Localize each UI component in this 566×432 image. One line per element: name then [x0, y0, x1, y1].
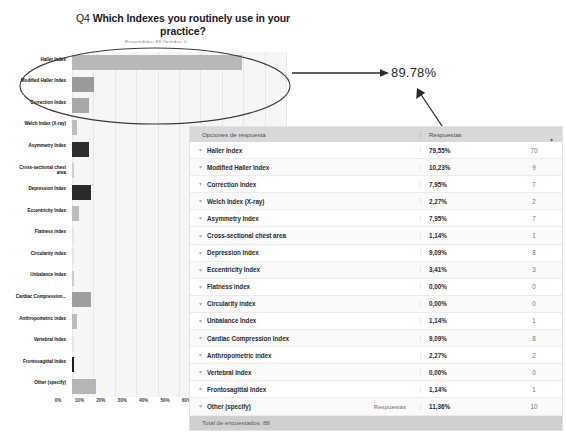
caret-down-icon[interactable]: ▾	[190, 386, 207, 392]
row-sub-label: Respuestas	[374, 403, 420, 410]
chart-bar	[72, 249, 74, 264]
table-row[interactable]: ▾Anthropometric index2,27%2	[190, 347, 562, 364]
chart-category-label: Cross-sectional chest area	[14, 165, 66, 176]
caret-down-icon[interactable]: ▾	[190, 352, 207, 358]
row-percent: 2,27%	[420, 198, 506, 205]
chart-category-label: Asymmetry Index	[14, 143, 66, 149]
caret-down-icon[interactable]: ▾	[190, 233, 207, 239]
table-row[interactable]: ▾Eccentricity Index3,41%3	[190, 262, 562, 279]
caret-down-icon[interactable]: ▾	[190, 301, 207, 307]
row-count: 70	[506, 147, 562, 154]
chart-x-tick: 40%	[139, 398, 148, 403]
row-percent: 0,00%	[420, 369, 506, 376]
row-count: 0	[506, 300, 562, 307]
chart-gridline	[158, 52, 159, 397]
row-count: 7	[506, 215, 562, 222]
row-option-label: Eccentricity Index	[207, 266, 406, 273]
chart-bar	[72, 206, 79, 221]
table-row[interactable]: ▾Welch Index (X-ray)2,27%2	[190, 193, 562, 210]
row-count: 10	[506, 403, 562, 410]
table-row[interactable]: ▾Asymmetry Index7,95%7	[190, 210, 562, 227]
row-option-label: Correction Index	[207, 181, 406, 188]
table-row[interactable]: ▾Frontosagittal Index1,14%1	[190, 381, 562, 398]
row-percent: 11,36%	[420, 403, 506, 410]
chevron-down-icon[interactable]: ▾	[550, 136, 553, 143]
row-percent: 79,55%	[420, 147, 506, 154]
row-percent: 10,23%	[420, 164, 506, 171]
table-row[interactable]: ▾Cardiac Compression Index9,09%8	[190, 330, 562, 347]
arrow-head-horizontal	[380, 69, 389, 77]
chart-bar	[72, 185, 91, 200]
chart-bar	[72, 292, 91, 307]
caret-down-icon[interactable]: ▾	[190, 318, 207, 324]
row-count: 3	[506, 266, 562, 273]
row-percent: 7,95%	[420, 215, 506, 222]
caret-down-icon[interactable]: ▾	[190, 335, 207, 341]
chart-category-label: Depression Index	[14, 186, 66, 192]
table-row[interactable]: ▾Other (specify)Respuestas11,36%10	[190, 398, 562, 415]
chart-x-tick: 10%	[75, 398, 84, 403]
row-percent: 9,09%	[420, 249, 506, 256]
row-percent: 1,14%	[420, 386, 506, 393]
caret-down-icon[interactable]: ▾	[190, 147, 207, 153]
row-count: 9	[506, 164, 562, 171]
row-percent: 3,41%	[420, 266, 506, 273]
chart-category-label: Eccentricity Index	[14, 208, 66, 214]
row-option-label: Unbalance Index	[207, 317, 406, 324]
caret-down-icon[interactable]: ▾	[190, 284, 207, 290]
table-row[interactable]: ▾Flatness index0,00%0	[190, 279, 562, 296]
row-count: 2	[506, 198, 562, 205]
row-option-label: Vertebral Index	[207, 369, 406, 376]
table-row[interactable]: ▾Cross-sectional chest area1,14%1	[190, 227, 562, 244]
column-header-options[interactable]: Opciones de respuesta	[190, 131, 420, 138]
caret-down-icon[interactable]: ▾	[190, 215, 207, 221]
table-footer-total: Total de encuestados: 88	[190, 416, 562, 430]
table-row[interactable]: ▾Modified Haller Index10,23%9	[190, 159, 562, 176]
chart-bar	[72, 379, 96, 394]
row-option-label: Cardiac Compression Index	[207, 335, 406, 342]
row-percent: 9,09%	[420, 335, 506, 342]
question-number: Q4	[76, 12, 90, 24]
row-percent: 1,14%	[420, 232, 506, 239]
chart-x-tick: 50%	[160, 398, 169, 403]
column-header-responses[interactable]: Respuestas	[420, 131, 506, 138]
table-row[interactable]: ▾Haller Index79,55%70	[190, 142, 562, 159]
caret-down-icon[interactable]: ▾	[190, 403, 207, 409]
row-option-label: Modified Haller Index	[207, 164, 406, 171]
table-row[interactable]: ▾Unbalance Index1,14%1	[190, 313, 562, 330]
chart-bar	[72, 55, 242, 70]
row-option-label: Anthropometric index	[207, 352, 406, 359]
row-option-label: Circularity index	[207, 300, 406, 307]
caret-down-icon[interactable]: ▾	[190, 267, 207, 273]
chart-category-label: Vertebral Index	[14, 337, 66, 343]
chart-category-label: Other (specify)	[14, 380, 66, 386]
row-option-label: Frontosagittal Index	[207, 386, 406, 393]
row-count: 1	[506, 232, 562, 239]
question-text-line2: practice?	[58, 25, 308, 38]
table-row[interactable]: ▾Circularity index0,00%0	[190, 296, 562, 313]
table-header-row: Opciones de respuesta Respuestas ▾	[190, 127, 562, 142]
caret-down-icon[interactable]: ▾	[190, 198, 207, 204]
table-row[interactable]: ▾Vertebral Index0,00%0	[190, 364, 562, 381]
table-row[interactable]: ▾Depression Index9,09%8	[190, 245, 562, 262]
responses-table: Opciones de respuesta Respuestas ▾ ▾Hall…	[190, 127, 562, 430]
arrow-head-diagonal	[416, 88, 425, 99]
caret-down-icon[interactable]: ▾	[190, 164, 207, 170]
chart-bar	[72, 163, 74, 178]
chart-category-label: Unbalance Index	[14, 272, 66, 278]
caret-down-icon[interactable]: ▾	[190, 250, 207, 256]
chart-x-tick: 0%	[55, 398, 62, 403]
chart-gridline	[115, 52, 116, 397]
table-row[interactable]: ▾Correction Index7,95%7	[190, 176, 562, 193]
chart-category-label: Anthropometric index	[14, 316, 66, 322]
caret-down-icon[interactable]: ▾	[190, 181, 207, 187]
row-option-label: Welch Index (X-ray)	[207, 198, 406, 205]
chart-category-label: Modified Haller Index	[14, 78, 66, 84]
question-text-line1: Which Indexes you routinely use in your	[93, 12, 290, 24]
row-option-label: Cross-sectional chest area	[207, 232, 406, 239]
row-count: 8	[506, 335, 562, 342]
row-option-label: Flatness index	[207, 283, 406, 290]
caret-down-icon[interactable]: ▾	[190, 369, 207, 375]
chart-bar	[72, 357, 74, 372]
row-percent: 7,95%	[420, 181, 506, 188]
